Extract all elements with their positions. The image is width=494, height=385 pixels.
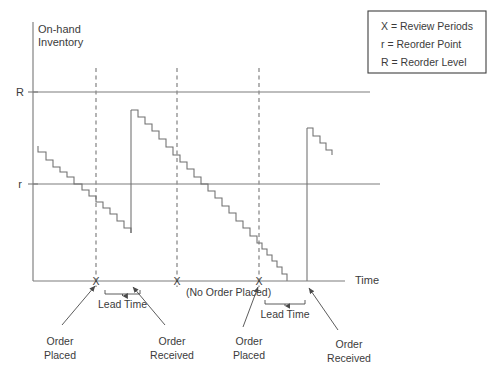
- lead-time-label-2: Lead Time: [260, 308, 309, 320]
- leader-order-received-2: [309, 288, 338, 330]
- order-received-2-line1: Order: [336, 338, 363, 350]
- y-axis-label-line1: On-hand: [38, 23, 81, 35]
- x-axis-label: Time: [355, 274, 379, 286]
- tick-label-R: R: [16, 86, 24, 98]
- legend-entry-review-periods: X = Review Periods: [381, 20, 473, 32]
- order-placed-1-line2: Placed: [44, 349, 76, 361]
- lead-time-bracket-2: [265, 300, 305, 304]
- legend-entry-reorder-point: r = Reorder Point: [381, 38, 461, 50]
- inventory-diagram-figure: On-hand Inventory R r Time X X X (No Ord…: [0, 0, 494, 385]
- tick-label-r: r: [18, 178, 22, 190]
- lead-time-bracket-1: [105, 290, 140, 294]
- leader-order-placed-1: [62, 286, 95, 325]
- order-received-1-line2: Received: [150, 349, 194, 361]
- inventory-stair-segment-1: [38, 146, 131, 233]
- diagram-canvas: On-hand Inventory R r Time X X X (No Ord…: [0, 0, 494, 385]
- no-order-placed-label: (No Order Placed): [186, 286, 271, 298]
- order-placed-2-line1: Order: [236, 335, 263, 347]
- inventory-stair-segment-3: [307, 128, 332, 155]
- order-placed-2-line2: Placed: [233, 349, 265, 361]
- inventory-stair-segment-2: [131, 110, 287, 281]
- order-received-1-line1: Order: [159, 335, 186, 347]
- order-received-2-line2: Received: [327, 352, 371, 364]
- order-placed-1-line1: Order: [47, 335, 74, 347]
- lead-time-label-1: Lead Time: [98, 298, 147, 310]
- legend-entry-reorder-level: R = Reorder Level: [381, 56, 467, 68]
- review-period-marker-1: X: [92, 275, 99, 287]
- review-period-marker-2: X: [173, 275, 180, 287]
- y-axis-label-line2: Inventory: [38, 36, 84, 48]
